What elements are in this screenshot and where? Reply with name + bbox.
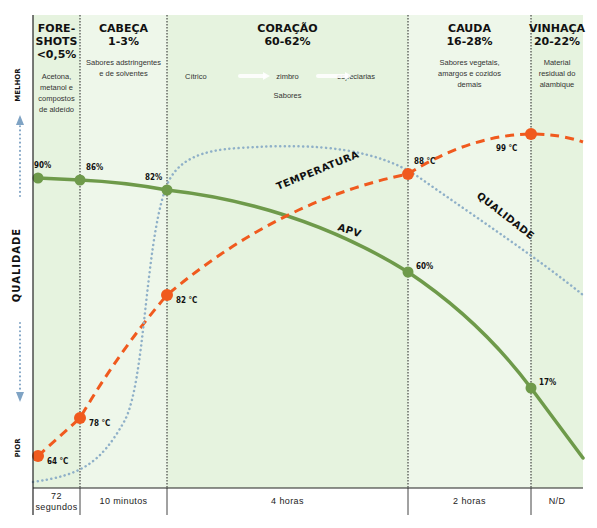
- phase-title: 60-62%: [264, 35, 310, 48]
- phase-description: e de solventes: [99, 69, 148, 78]
- phase-title: <0,5%: [37, 48, 77, 61]
- duration-label: 4 horas: [271, 496, 304, 506]
- phase-description: de aldeído: [39, 105, 74, 114]
- temperature-point: [74, 412, 86, 424]
- phase-title: 16-28%: [446, 35, 492, 48]
- temperature-point-label: 88 °C: [414, 157, 435, 166]
- duration-label: 10 minutos: [99, 496, 147, 506]
- temperature-point-label: 78 °C: [89, 419, 110, 428]
- arrow-down-icon: [16, 392, 24, 402]
- flavor-label: zimbro: [276, 72, 299, 81]
- temperature-point: [402, 168, 414, 180]
- apv-point: [75, 175, 86, 186]
- temperature-point-label: 82 °C: [176, 296, 197, 305]
- duration-label: N/D: [549, 496, 566, 506]
- temperature-point-label: 64 °C: [47, 457, 68, 466]
- temperature-point: [525, 128, 537, 140]
- distillation-chart: FORE-SHOTS<0,5%Acetona,metanol ecomposto…: [0, 0, 597, 528]
- duration-label: segundos: [35, 502, 77, 512]
- phase-description: amargos e cozidos: [438, 69, 501, 78]
- phase-title: CABEÇA: [99, 22, 149, 35]
- apv-point: [33, 173, 44, 184]
- phase-description: alambique: [540, 80, 575, 89]
- phase-backgrounds: [33, 15, 583, 488]
- phase-description: Sabores vegetais,: [439, 58, 499, 67]
- apv-point-label: 17%: [539, 378, 556, 387]
- phase-bg-cabeca: [80, 15, 167, 488]
- phase-title: 20-22%: [534, 35, 580, 48]
- duration-label: 2 horas: [453, 496, 486, 506]
- phase-description: metanol e: [40, 83, 73, 92]
- apv-point: [403, 267, 414, 278]
- phase-title: 1-3%: [108, 35, 139, 48]
- phase-title: FORE-: [38, 22, 75, 35]
- phase-title: VINHAÇA: [529, 22, 586, 35]
- apv-point-label: 86%: [86, 163, 103, 172]
- duration-labels: 72segundos10 minutos4 horas2 horasN/D: [35, 491, 565, 512]
- phase-description: residual do: [539, 69, 576, 78]
- phase-description: Material: [544, 58, 571, 67]
- arrow-up-icon: [16, 115, 24, 125]
- temperature-point: [32, 450, 44, 462]
- phase-title: CAUDA: [448, 22, 491, 35]
- y-axis-bottom-label: PIOR: [14, 438, 22, 458]
- apv-point-label: 60%: [416, 262, 433, 271]
- apv-point-label: 90%: [34, 161, 51, 170]
- phase-description: compostos: [38, 94, 75, 103]
- temperature-point: [161, 289, 173, 301]
- temperature-point-label: 99 °C: [496, 144, 517, 153]
- phase-title: CORAÇÃO: [257, 22, 317, 35]
- apv-point: [162, 185, 173, 196]
- phase-description: Acetona,: [42, 72, 72, 81]
- phase-title: SHOTS: [36, 35, 78, 48]
- phase-description: Sabores adstringentes: [86, 58, 161, 67]
- y-axis-top-label: MELHOR: [14, 68, 22, 102]
- apv-point: [526, 383, 537, 394]
- flavor-caption: Sabores: [274, 91, 302, 100]
- phase-description: demais: [457, 80, 481, 89]
- apv-point-label: 82%: [145, 173, 162, 182]
- y-axis-title: QUALIDADE: [11, 228, 22, 302]
- duration-label: 72: [51, 491, 62, 501]
- flavor-label: Cítrico: [185, 72, 207, 81]
